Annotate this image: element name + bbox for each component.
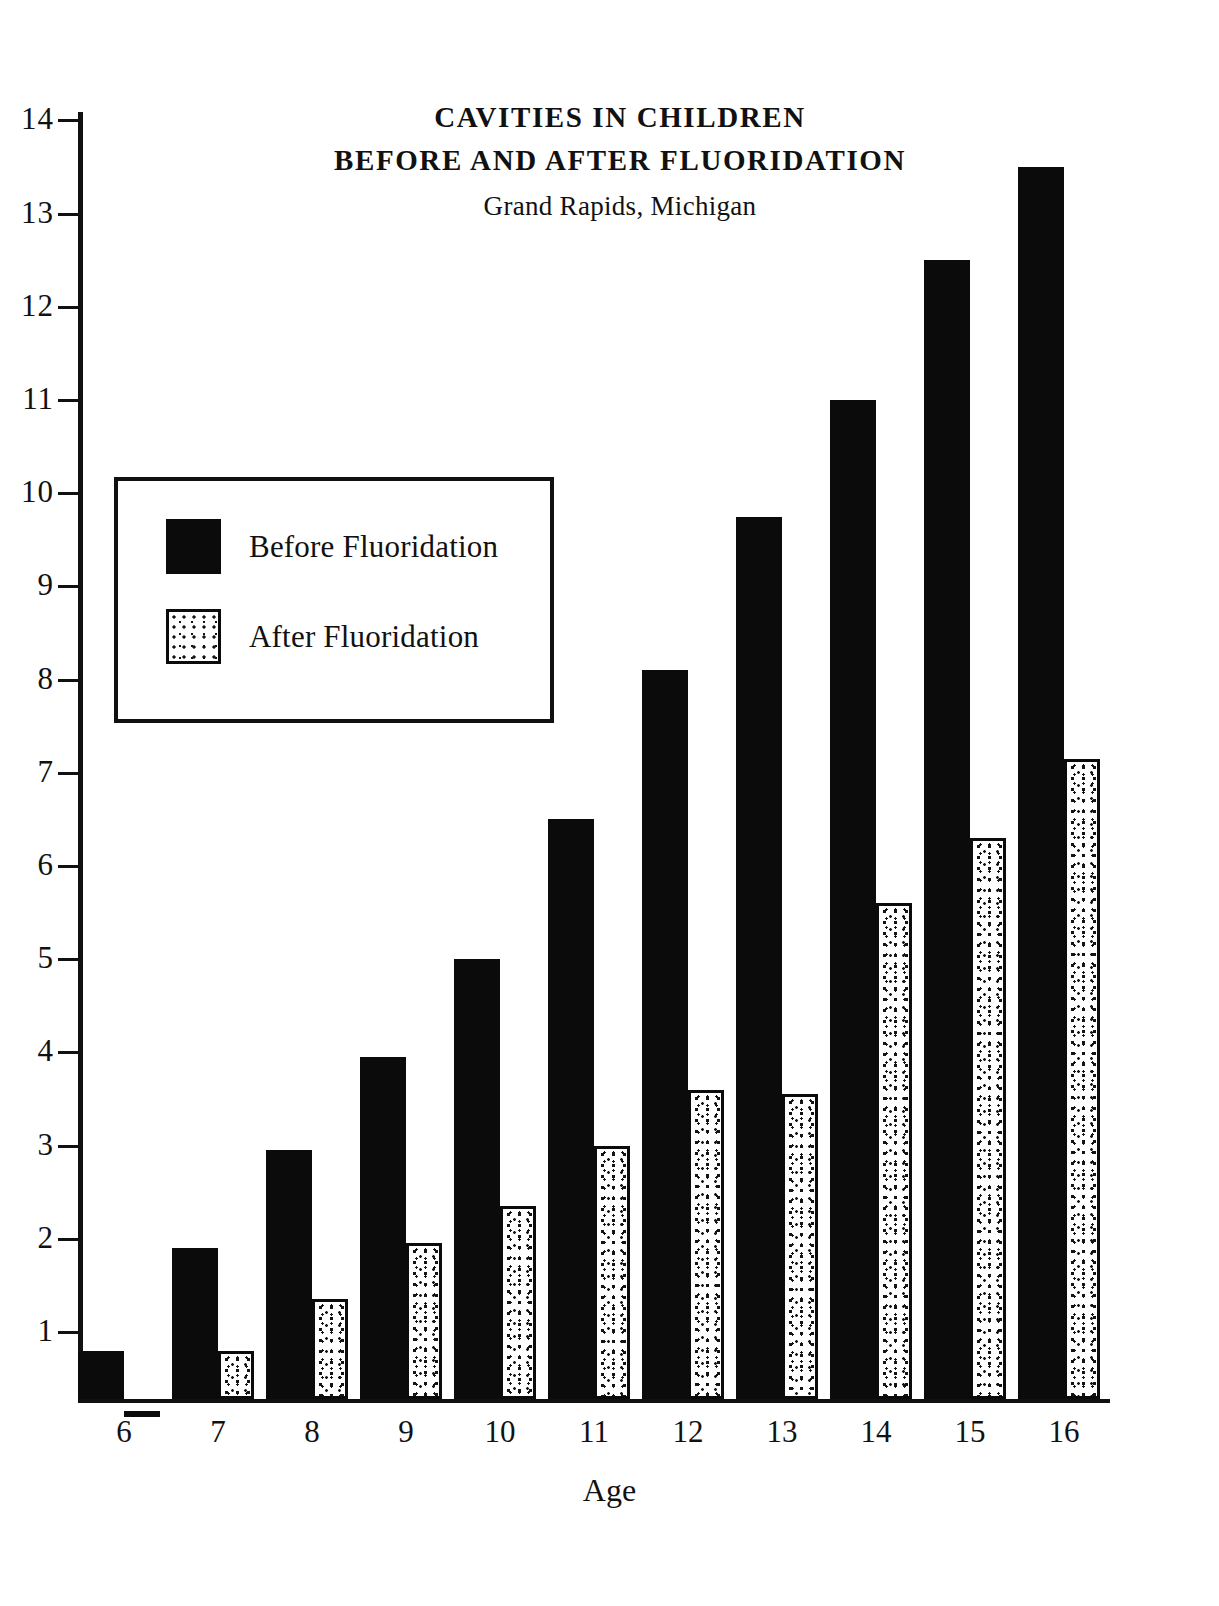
y-axis-label-10: 10 xyxy=(8,476,54,507)
bar-before-age-7 xyxy=(172,1248,218,1399)
bar-before-age-11 xyxy=(548,819,594,1399)
bar-after-age-9 xyxy=(406,1243,442,1399)
bar-after-age-8 xyxy=(312,1299,348,1399)
y-axis-label-8: 8 xyxy=(8,663,54,694)
y-axis-label-2: 2 xyxy=(8,1222,54,1253)
y-axis-label-4: 4 xyxy=(8,1035,54,1066)
y-axis-tick-1 xyxy=(58,1331,80,1334)
bar-after-age-12 xyxy=(688,1090,724,1399)
y-axis-tick-4 xyxy=(58,1051,80,1054)
x-axis-label-10: 10 xyxy=(460,1414,540,1450)
x-axis-label-6: 6 xyxy=(84,1414,164,1450)
bar-after-age-11 xyxy=(594,1146,630,1399)
bar-before-age-6 xyxy=(78,1351,124,1399)
legend-swatch-stipple-icon xyxy=(166,609,221,664)
legend-swatch-solid-icon xyxy=(166,519,221,574)
x-axis-line xyxy=(78,1399,1110,1403)
y-axis-label-9: 9 xyxy=(8,569,54,600)
bar-after-age-15 xyxy=(970,838,1006,1399)
x-axis-label-16: 16 xyxy=(1024,1414,1104,1450)
x-axis-label-11: 11 xyxy=(554,1414,634,1450)
y-axis-label-12: 12 xyxy=(8,290,54,321)
y-axis-label-11: 11 xyxy=(8,383,54,414)
bar-after-age-16 xyxy=(1064,759,1100,1399)
y-axis-label-6: 6 xyxy=(8,849,54,880)
x-axis-label-13: 13 xyxy=(742,1414,822,1450)
y-axis-tick-12 xyxy=(58,306,80,309)
x-axis-label-8: 8 xyxy=(272,1414,352,1450)
x-axis-label-9: 9 xyxy=(366,1414,446,1450)
x-axis-title: Age xyxy=(0,1472,1219,1509)
y-axis-tick-11 xyxy=(58,399,80,402)
bar-before-age-8 xyxy=(266,1150,312,1399)
bar-before-age-13 xyxy=(736,517,782,1400)
x-axis-label-7: 7 xyxy=(178,1414,258,1450)
y-axis-label-7: 7 xyxy=(8,756,54,787)
bar-after-age-7 xyxy=(218,1351,254,1399)
y-axis-label-3: 3 xyxy=(8,1129,54,1160)
bar-before-age-15 xyxy=(924,260,970,1399)
bar-before-age-12 xyxy=(642,670,688,1399)
y-axis-tick-8 xyxy=(58,679,80,682)
bar-before-age-10 xyxy=(454,959,500,1399)
x-axis-label-14: 14 xyxy=(836,1414,916,1450)
y-axis-tick-14 xyxy=(58,119,80,122)
x-axis-label-15: 15 xyxy=(930,1414,1010,1450)
y-axis-label-14: 14 xyxy=(8,103,54,134)
legend-label-after: After Fluoridation xyxy=(249,619,479,655)
bar-before-age-14 xyxy=(830,400,876,1399)
x-axis-label-12: 12 xyxy=(648,1414,728,1450)
y-axis-tick-2 xyxy=(58,1238,80,1241)
legend-item-before-fluoridation: Before Fluoridation xyxy=(166,519,498,574)
y-axis-label-13: 13 xyxy=(8,197,54,228)
bar-after-age-10 xyxy=(500,1206,536,1399)
y-axis-label-1: 1 xyxy=(8,1315,54,1346)
y-axis-tick-13 xyxy=(58,213,80,216)
y-axis-tick-10 xyxy=(58,492,80,495)
bar-after-age-13 xyxy=(782,1094,818,1399)
y-axis-tick-9 xyxy=(58,585,80,588)
y-axis-tick-7 xyxy=(58,772,80,775)
bar-after-age-14 xyxy=(876,903,912,1399)
bar-chart: 1234567891011121314 678910111213141516 xyxy=(0,0,1219,1606)
legend-label-before: Before Fluoridation xyxy=(249,529,498,565)
y-axis-tick-5 xyxy=(58,958,80,961)
bar-before-age-16 xyxy=(1018,167,1064,1399)
y-axis-tick-3 xyxy=(58,1145,80,1148)
chart-legend: Before Fluoridation After Fluoridation xyxy=(114,477,554,723)
bar-before-age-9 xyxy=(360,1057,406,1399)
y-axis-tick-6 xyxy=(58,865,80,868)
legend-item-after-fluoridation: After Fluoridation xyxy=(166,609,479,664)
y-axis-label-5: 5 xyxy=(8,942,54,973)
